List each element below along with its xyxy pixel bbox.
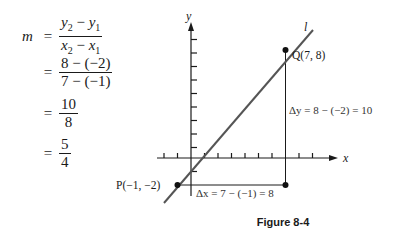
y-axis-ticks — [191, 40, 197, 172]
coordinate-diagram: y x l Q(7, 8) P(−1, −2) Δy = 8 − (−2) = … — [0, 0, 411, 242]
figure-caption: Figure 8-4 — [248, 216, 318, 228]
delta-x-label: Δx = 7 − (−1) = 8 — [196, 187, 274, 200]
x-axis-label: x — [342, 151, 349, 165]
point-p-label: P(−1, −2) — [116, 179, 160, 192]
point-q — [283, 47, 289, 53]
line-label: l — [304, 20, 308, 34]
x-axis-arrow-icon — [329, 155, 338, 161]
x-axis-ticks — [164, 153, 313, 158]
line-l — [164, 30, 313, 203]
x-axis — [157, 153, 330, 158]
y-axis-arrow-icon — [188, 22, 194, 31]
delta-y-label: Δy = 8 − (−2) = 10 — [289, 104, 373, 117]
y-axis-label: y — [185, 9, 192, 23]
corner-point — [283, 182, 289, 188]
point-p — [175, 182, 181, 188]
point-q-label: Q(7, 8) — [292, 49, 325, 62]
